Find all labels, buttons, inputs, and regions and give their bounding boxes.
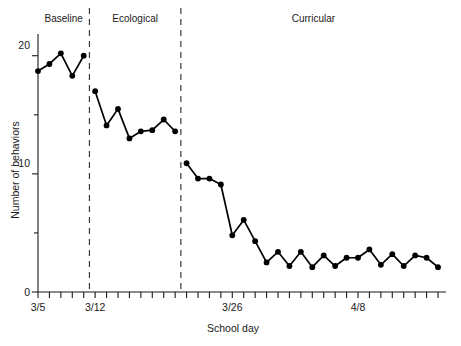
data-point [435,264,441,270]
data-point [207,176,213,182]
data-line-segment [38,53,84,75]
data-line-segment [95,91,175,138]
data-point [69,73,75,79]
data-point [309,264,315,270]
data-point [298,249,304,255]
data-point [367,247,373,253]
x-tick-label: 3/5 [31,301,46,313]
data-series-points [35,50,441,270]
data-point [172,128,178,134]
y-tick-label-0: 0 [24,286,30,298]
x-axis-ticks [38,292,438,298]
data-point [115,106,121,112]
phase-label-curricular: Curricular [292,13,336,24]
data-point [401,263,407,269]
x-axis-title: School day [207,322,260,334]
data-point [424,255,430,261]
phase-divider-lines [89,8,180,292]
data-point [229,232,235,238]
y-axis-title: Number of behaviors [9,121,21,218]
data-point [378,262,384,268]
behavior-line-chart: 20 10 0 3/53/123/264/8 Number of behavio… [0,0,461,346]
data-point [344,255,350,261]
x-tick-label: 4/8 [351,301,366,313]
data-point [149,127,155,133]
x-tick-label: 3/26 [222,301,243,313]
data-point [355,255,361,261]
data-point [332,263,338,269]
data-point [218,182,224,188]
data-point [184,160,190,166]
data-point [138,128,144,134]
data-point [264,260,270,266]
data-point [287,263,293,269]
data-point [58,50,64,56]
data-point [161,117,167,123]
chart-svg: 20 10 0 3/53/123/264/8 Number of behavio… [0,0,461,346]
data-point [252,238,258,244]
phase-labels-group: Baseline Ecological Curricular [45,13,336,24]
data-point [127,136,133,142]
data-point [275,249,281,255]
phase-label-baseline: Baseline [45,13,84,24]
data-point [104,123,110,129]
data-point [195,176,201,182]
x-tick-label: 3/12 [85,301,106,313]
data-point [321,252,327,258]
data-point [47,61,53,67]
data-point [412,252,418,258]
y-tick-label-20: 20 [18,39,30,51]
data-point [241,217,247,223]
axes-group [38,34,446,292]
data-point [35,68,41,74]
y-axis-ticks [32,56,38,292]
data-series-lines [38,53,438,267]
data-point [92,88,98,94]
data-point [389,251,395,257]
phase-label-ecological: Ecological [112,13,158,24]
data-line-segment [187,163,438,267]
x-tick-labels: 3/53/123/264/8 [31,301,366,313]
data-point [81,53,87,59]
